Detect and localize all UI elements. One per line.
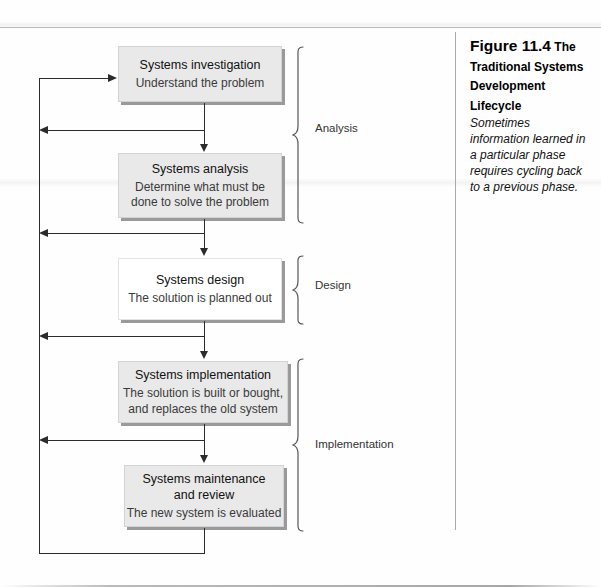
arrow-down-icon xyxy=(200,144,208,152)
flow-node-title: Systems design xyxy=(156,272,244,288)
phase-label-analysis: Analysis xyxy=(315,122,358,134)
feedback-stub-from-maintenance xyxy=(204,440,205,456)
feedback-stub-from-implementation xyxy=(204,336,205,352)
column-divider xyxy=(455,32,456,530)
flow-node-desc: The solution is built or bought, and rep… xyxy=(123,386,283,417)
flow-node-desc: Understand the problem xyxy=(136,76,265,91)
figure-caption: Figure 11.4 The Traditional Systems Deve… xyxy=(470,36,592,196)
figure-number: Figure 11.4 xyxy=(470,37,551,54)
arrow-down-icon xyxy=(200,455,208,463)
arrow-down-icon xyxy=(200,351,208,359)
bottom-loop-return xyxy=(39,553,205,554)
figure-page: Systems investigation Understand the pro… xyxy=(0,0,601,587)
flow-node-systems-design: Systems design The solution is planned o… xyxy=(118,258,282,320)
page-top-rule xyxy=(0,27,601,28)
flow-node-systems-maintenance: Systems maintenance and review The new s… xyxy=(124,465,284,527)
flow-node-systems-analysis: Systems analysis Determine what must be … xyxy=(118,153,282,218)
arrow-left-icon xyxy=(39,229,48,237)
flow-node-title: Systems investigation xyxy=(140,57,261,73)
flow-node-desc: The new system is evaluated xyxy=(127,506,282,521)
phase-bracket-implementation xyxy=(292,358,310,532)
figure-heading: Figure 11.4 The Traditional Systems Deve… xyxy=(470,36,592,114)
arrow-left-icon xyxy=(39,332,48,340)
flow-node-systems-implementation: Systems implementation The solution is b… xyxy=(118,361,288,423)
feedback-line-from-design xyxy=(48,233,205,234)
arrow-left-icon xyxy=(39,436,48,444)
phase-label-implementation: Implementation xyxy=(315,438,394,450)
feedback-stub-from-analysis xyxy=(204,130,205,145)
phase-label-design: Design xyxy=(315,279,351,291)
phase-bracket-design xyxy=(292,255,310,325)
bottom-loop-down xyxy=(204,528,205,554)
phase-bracket-analysis xyxy=(292,46,310,224)
feedback-entry-line xyxy=(39,78,109,79)
flow-node-title: Systems analysis xyxy=(152,161,249,177)
arrow-down-icon xyxy=(200,248,208,256)
flow-node-desc: Determine what must be done to solve the… xyxy=(131,180,269,211)
feedback-line-from-implementation xyxy=(48,336,205,337)
feedback-rail-vertical xyxy=(39,78,40,554)
feedback-line-from-maintenance xyxy=(48,440,205,441)
flow-node-systems-investigation: Systems investigation Understand the pro… xyxy=(118,46,282,102)
figure-description: Sometimes information learned in a parti… xyxy=(470,116,592,196)
flow-node-title: Systems implementation xyxy=(135,367,271,383)
feedback-line-from-analysis xyxy=(48,130,205,131)
arrow-left-icon xyxy=(39,126,48,134)
flow-node-desc: The solution is planned out xyxy=(128,291,271,306)
feedback-stub-from-design xyxy=(204,233,205,249)
arrow-right-icon xyxy=(108,74,117,82)
flow-node-title: Systems maintenance and review xyxy=(143,471,266,503)
